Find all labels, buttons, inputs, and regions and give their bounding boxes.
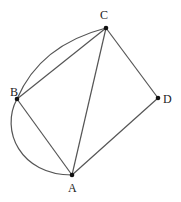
label-c: C <box>100 9 108 21</box>
label-b: B <box>10 86 18 98</box>
point-c <box>104 26 109 31</box>
point-d <box>156 96 161 101</box>
label-a: A <box>68 182 77 194</box>
segment-ca <box>72 28 106 175</box>
arc-ba <box>11 99 72 175</box>
segment-da <box>72 98 158 175</box>
diagram-canvas <box>0 0 181 202</box>
label-d: D <box>163 93 172 105</box>
geometry-diagram: C B D A <box>0 0 181 202</box>
segment-ab <box>17 99 72 175</box>
point-a <box>70 173 75 178</box>
segment-cd <box>106 28 158 98</box>
